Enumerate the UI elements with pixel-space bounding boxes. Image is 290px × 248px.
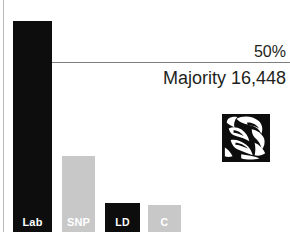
- bar-ld: LD: [105, 203, 140, 232]
- bar-label-c: C: [148, 216, 181, 228]
- fifty-percent-label: 50%: [254, 43, 286, 61]
- bar-label-lab: Lab: [13, 216, 52, 228]
- fifty-percent-line: [52, 62, 290, 63]
- bar-label-ld: LD: [105, 216, 140, 228]
- bar-c: C: [148, 205, 181, 232]
- election-result-bar-chart: Lab SNP LD C 50% Majority 16,448: [0, 0, 290, 248]
- bar-snp: SNP: [62, 156, 95, 232]
- bar-label-snp: SNP: [62, 216, 95, 228]
- majority-label: Majority 16,448: [163, 68, 286, 89]
- vertical-axis-rule: [3, 0, 4, 232]
- labour-rose-icon: [222, 114, 270, 162]
- bar-lab: Lab: [13, 21, 52, 232]
